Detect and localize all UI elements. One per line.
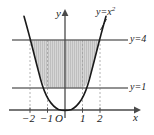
x-tick-label-1: 1 (80, 113, 86, 124)
level-label-y-equals-4: y=4 (130, 34, 146, 44)
math-figure-parabola-region: y=x2 y=4 y=1 y x O −2 −1 1 2 (0, 0, 154, 135)
x-axis-label: x (133, 112, 138, 123)
y-axis-label: y (56, 8, 61, 19)
curve-label-base: y=x (96, 6, 112, 17)
origin-label: O (55, 113, 63, 124)
curve-label-y-equals-x-squared: y=x2 (96, 6, 115, 17)
curve-label-leader (101, 19, 107, 30)
level-label-y-equals-1: y=1 (130, 82, 146, 92)
x-tick-label-minus-1: −1 (40, 113, 53, 124)
x-tick-label-minus-2: −2 (22, 113, 35, 124)
x-tick-label-2: 2 (97, 113, 103, 124)
curve-label-exponent: 2 (112, 5, 116, 13)
